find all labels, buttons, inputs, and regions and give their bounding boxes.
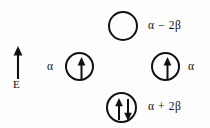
energy-label-nonbonding-left: α [47,61,53,73]
orbital-bonding [106,92,137,123]
electron-arrow-up-single [67,54,96,83]
electron-arrows-empty [110,13,140,43]
mo-energy-level-diagram: E α − 2β α α α + 2β [0,0,210,128]
energy-label-nonbonding-right: α [188,61,194,73]
orbital-antibonding [108,11,138,41]
orbital-nonbonding-right [151,52,180,81]
energy-label-bonding: α + 2β [148,101,181,113]
orbital-nonbonding-left [65,52,94,81]
energy-label-antibonding: α − 2β [148,20,181,32]
electron-arrow-pair-up-down [108,94,139,125]
electron-arrow-up-single [153,54,182,83]
energy-axis-up-arrow-icon [11,46,25,80]
energy-axis-label: E [13,79,20,90]
